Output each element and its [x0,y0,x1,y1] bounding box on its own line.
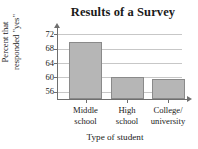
y-axis-tick-label: 68 [38,44,54,53]
x-axis-tick-mark [86,99,87,103]
gridline [57,34,182,35]
bar [111,77,144,99]
y-axis-tick-mark [54,63,58,64]
y-axis-tick-mark [54,92,58,93]
y-axis-arrow-icon [54,23,60,28]
survey-bar-chart: Results of a Survey Percent that respond… [0,0,198,149]
y-axis-tick-label: 60 [38,73,54,82]
x-axis-tick-mark [127,99,128,103]
category-label-line: College/ [140,105,196,116]
chart-title: Results of a Survey [48,5,198,19]
plot-area [57,29,190,99]
y-axis-label-line-1: Percent that [0,0,11,92]
x-axis-label: Type of student [40,132,190,143]
bar [69,42,102,99]
x-axis-category-label: College/university [140,105,196,126]
category-label-line: university [140,116,196,127]
y-axis-tick-label: 72 [38,30,54,39]
y-axis-tick-labels: 5660646872 [36,0,54,149]
bar [152,79,185,99]
y-axis-tick-mark [54,77,58,78]
y-axis-tick-label: 56 [38,87,54,96]
y-axis-tick-mark [54,34,58,35]
x-axis-arrow-icon [187,96,192,102]
x-axis-tick-mark [168,99,169,103]
y-axis-label: Percent that responded "yes" [0,0,28,92]
y-axis-label-line-2: responded "yes" [11,0,22,92]
y-axis-tick-mark [54,49,58,50]
y-axis-tick-label: 64 [38,59,54,68]
